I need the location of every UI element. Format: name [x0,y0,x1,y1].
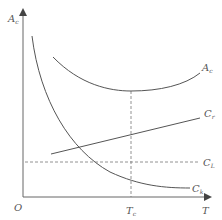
cl-line-label: CL [203,157,215,169]
y-axis-label: Ac [7,13,19,25]
ac-curve-label: Ac [201,62,213,74]
ac-curve [53,57,200,91]
x-axis-label: T [202,205,210,216]
cr-line-label: Cr [204,108,216,120]
ck-curve [32,36,190,188]
ck-curve-label: Ck [192,183,204,195]
cost-curve-diagram: Ac O T Tc Ac Cr CL Ck [0,0,222,220]
cr-line [51,118,200,154]
tc-label: Tc [126,205,137,217]
origin-label: O [14,202,22,213]
